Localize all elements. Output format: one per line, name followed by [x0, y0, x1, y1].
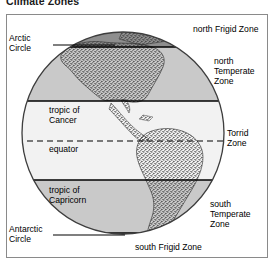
figure-frame: Arctic Circle north Frigid Zone north Te…	[6, 14, 268, 258]
label-antarctic-circle: Antarctic Circle	[9, 224, 42, 244]
label-equator: equator	[49, 144, 78, 154]
label-arctic-circle: Arctic Circle	[9, 33, 31, 53]
label-north-temperate-zone: north Temperate Zone	[214, 56, 255, 87]
label-south-frigid-zone: south Frigid Zone	[135, 242, 202, 252]
figure-title: Climate Zones	[6, 0, 79, 7]
label-south-temperate-zone: south Temperate Zone	[210, 199, 251, 230]
label-north-frigid-zone: north Frigid Zone	[193, 24, 258, 34]
label-torrid-zone: Torrid Zone	[227, 128, 249, 148]
climate-zones-figure: Climate Zones	[0, 0, 278, 267]
label-tropic-of-capricorn: tropic of Capricorn	[49, 185, 86, 205]
label-tropic-of-cancer: tropic of Cancer	[49, 105, 80, 125]
